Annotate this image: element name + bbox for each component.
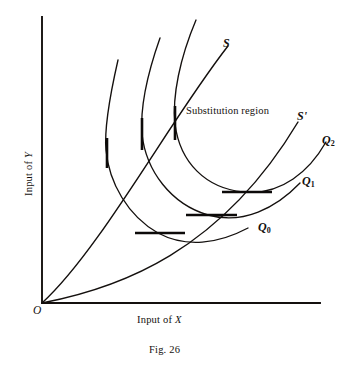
y-axis-label-prefix: Input of [23,158,34,196]
substitution-region-label: Substitution region [186,106,269,117]
isoquant-curve-q1 [142,38,300,218]
isoquant-label-q1-base: Q [302,174,311,188]
origin-label: O [33,305,41,317]
ridge-line-s-prime-label: S' [297,110,307,122]
isoquant-label-q0-base: Q [258,220,267,234]
isoquant-label-q0-subscript: 0 [267,226,271,235]
isoquant-label-q2-subscript: 2 [331,139,335,148]
y-axis-label: Input of Y [24,152,35,196]
isoquant-label-q2-base: Q [322,133,331,147]
y-axis-label-variable: Y [23,152,34,158]
x-axis-label: Input of X [137,315,182,326]
isoquant-diagram [0,0,351,368]
ridge-line-s-prime [42,122,298,303]
ridge-line-s-label: S [223,37,230,49]
isoquant-label-q1: Q1 [302,175,315,187]
figure-caption: Fig. 26 [149,345,180,356]
isoquant-label-q1-subscript: 1 [311,180,315,189]
isoquant-label-q2: Q2 [322,134,335,146]
x-axis-label-prefix: Input of [137,314,175,325]
figure-container: S S' Q2 Q1 Q0 Substitution region O Inpu… [0,0,351,368]
isoquant-label-q0: Q0 [258,221,271,233]
x-axis-label-variable: X [175,314,182,325]
